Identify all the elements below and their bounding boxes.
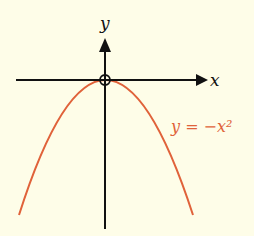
y-axis-label: y: [99, 13, 110, 33]
x-axis-label: x: [210, 70, 220, 90]
parabola-diagram: x y y = −x²: [0, 0, 254, 236]
x-axis-arrow-icon: [196, 74, 208, 86]
y-axis-arrow-icon: [99, 38, 111, 52]
equation-label: y = −x²: [170, 117, 232, 136]
